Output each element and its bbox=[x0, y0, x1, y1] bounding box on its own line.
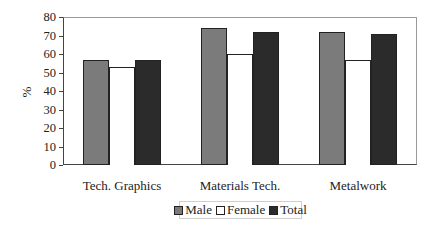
legend-item-total: Total bbox=[269, 202, 307, 218]
legend-swatch-female bbox=[216, 206, 225, 215]
legend: Male Female Total bbox=[179, 201, 302, 219]
y-tick-label: 0 bbox=[30, 159, 56, 171]
legend-item-male: Male bbox=[174, 202, 212, 218]
legend-item-female: Female bbox=[216, 202, 265, 218]
bar-total bbox=[253, 32, 279, 165]
bar-female bbox=[345, 60, 371, 165]
y-tick-label: 40 bbox=[30, 85, 56, 97]
bar-female bbox=[227, 54, 253, 165]
x-tick-label: Materials Tech. bbox=[181, 178, 299, 194]
legend-label-total: Total bbox=[280, 202, 307, 218]
legend-label-female: Female bbox=[227, 202, 265, 218]
bar-female bbox=[109, 67, 135, 165]
legend-swatch-male bbox=[174, 206, 183, 215]
y-tick-label: 30 bbox=[30, 104, 56, 116]
y-tick-label: 20 bbox=[30, 122, 56, 134]
y-tick-label: 70 bbox=[30, 30, 56, 42]
y-tick-label: 60 bbox=[30, 48, 56, 60]
bar-male bbox=[201, 28, 227, 165]
y-tick-label: 10 bbox=[30, 141, 56, 153]
y-tick-label: 50 bbox=[30, 67, 56, 79]
bar-male bbox=[319, 32, 345, 165]
x-tick-label: Tech. Graphics bbox=[63, 178, 181, 194]
x-tick-label: Metalwork bbox=[299, 178, 417, 194]
bar-male bbox=[83, 60, 109, 165]
bar-total bbox=[135, 60, 161, 165]
bar-chart: % 01020304050607080 Tech. GraphicsMateri… bbox=[0, 0, 443, 230]
y-tick-mark bbox=[59, 165, 63, 166]
bar-total bbox=[371, 34, 397, 165]
legend-label-male: Male bbox=[185, 202, 212, 218]
legend-swatch-total bbox=[269, 206, 278, 215]
y-tick-label: 80 bbox=[30, 11, 56, 23]
